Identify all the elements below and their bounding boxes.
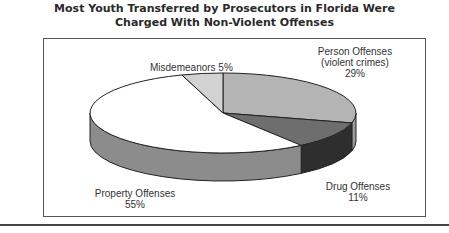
label-person-offenses: Person Offenses (violent crimes) 29% xyxy=(300,46,410,79)
label-misdemeanors: Misdemeanors 5% xyxy=(150,62,233,73)
label-drug-offenses: Drug Offenses 11% xyxy=(318,181,398,203)
bottom-rule xyxy=(0,224,449,226)
label-property-offenses: Property Offenses 55% xyxy=(80,188,190,210)
